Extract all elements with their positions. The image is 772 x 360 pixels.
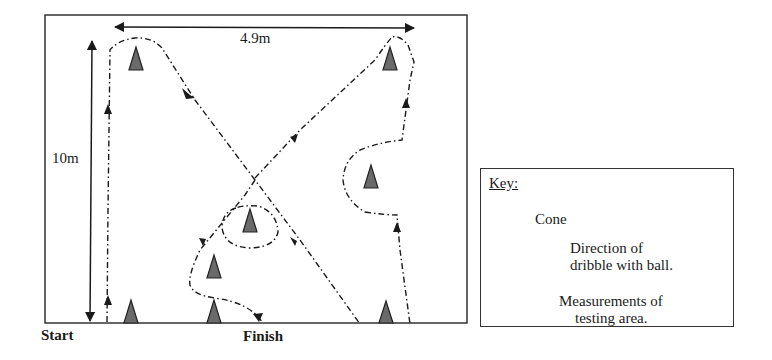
cones bbox=[124, 47, 397, 323]
legend-cone-label: Cone bbox=[535, 211, 567, 228]
cone-icon bbox=[129, 47, 143, 70]
cone-icon bbox=[207, 300, 221, 323]
legend-measurement-label-line2: testing area. bbox=[575, 310, 647, 327]
cone-icon bbox=[364, 165, 378, 188]
legend-dribble-label-line2: dribble with ball. bbox=[570, 257, 673, 274]
cone-icon bbox=[207, 255, 221, 278]
start-label: Start bbox=[41, 327, 74, 344]
direction-arrowheads bbox=[104, 88, 410, 322]
legend-dribble-label-line1: Direction of bbox=[570, 240, 643, 257]
height-measurement-arrow bbox=[90, 41, 92, 321]
legend-measurement-label-line1: Measurements of bbox=[559, 293, 663, 310]
width-measurement-arrow bbox=[115, 27, 414, 28]
cone-icon bbox=[379, 301, 393, 323]
cone-icon bbox=[243, 209, 257, 232]
finish-label: Finish bbox=[243, 328, 283, 345]
legend-title: Key: bbox=[489, 175, 518, 192]
cone-icon bbox=[124, 300, 138, 323]
legend-box: Key: Cone Direction of dribble with ball… bbox=[480, 168, 734, 327]
cone-icon bbox=[383, 47, 397, 70]
width-label: 4.9m bbox=[240, 30, 270, 47]
height-label: 10m bbox=[52, 150, 79, 167]
